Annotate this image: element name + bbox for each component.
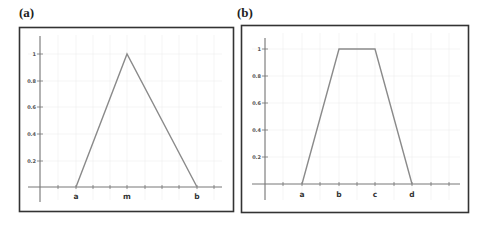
panel-a-ytick: 1 (33, 51, 37, 57)
panel-b-chart: 1 0.8 0.6 0.4 0.2 a b c d (242, 26, 469, 213)
panel-a-ytick: 0.8 (27, 78, 36, 84)
panel-a-xlabel: b (194, 192, 200, 201)
panel-b-xlabel: c (373, 190, 377, 199)
panel-a-ytick: 0.4 (27, 131, 36, 137)
figure-canvas: 1 0.8 0.6 0.4 0.2 a m b 1 0.8 (0, 0, 484, 225)
panel-a-chart: 1 0.8 0.6 0.4 0.2 a m b (20, 28, 234, 212)
panel-b-ytick: 0.4 (252, 127, 261, 133)
panel-b-xlabel: d (409, 190, 414, 199)
panel-b-ytick: 0.8 (252, 73, 261, 79)
panel-a-ytick: 0.2 (27, 158, 36, 164)
panel-b-ytick: 0.6 (252, 100, 261, 106)
panel-a-xlabel: m (123, 192, 131, 201)
panel-b-xlabel: b (336, 190, 342, 199)
panel-b-ytick: 1 (258, 46, 262, 52)
panel-b-xlabel: a (299, 190, 304, 199)
panel-a-ytick: 0.6 (27, 104, 36, 110)
panel-b-ytick: 0.2 (252, 154, 261, 160)
panel-a-xlabel: a (73, 192, 78, 201)
